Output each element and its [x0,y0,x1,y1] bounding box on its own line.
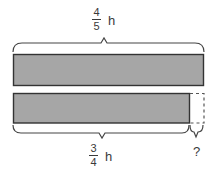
unknown-label: ? [193,145,200,158]
bottom-unit: h [105,150,112,163]
full-bar [14,55,204,86]
bottom-brace [13,125,189,138]
top-fraction: 4 5 [92,7,101,32]
top-numerator: 4 [92,7,100,19]
bottom-numerator: 3 [89,143,97,155]
bottom-denominator: 4 [90,156,96,168]
top-denominator: 5 [93,20,99,32]
bottom-fraction: 3 4 [89,143,98,168]
missing-part-dashed [190,94,204,124]
partial-bar [14,94,190,124]
top-unit: h [108,14,115,27]
unknown-brace [190,125,203,137]
top-brace [13,38,204,52]
